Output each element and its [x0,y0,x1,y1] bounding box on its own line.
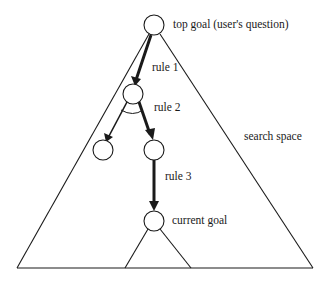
rule2-right-arrow [139,102,155,140]
rule3-arrow [149,160,159,211]
top-goal-label: top goal (user's question) [173,19,288,31]
search-space-label: search space [244,131,302,143]
and-arc [121,110,143,114]
right-child-node [144,140,164,160]
left-child-node [93,140,113,160]
top-goal-node [144,15,164,35]
current-goal-subtree [125,229,191,268]
current-goal-label: current goal [172,215,227,227]
rule3-label: rule 3 [165,171,192,183]
rule2-label: rule 2 [154,102,181,114]
rule1-node [123,84,143,104]
rule1-label: rule 1 [152,62,179,74]
current-goal-node [144,211,164,231]
